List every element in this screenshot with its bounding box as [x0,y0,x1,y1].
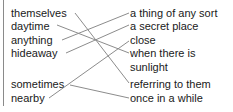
def-close[interactable]: close [130,34,156,46]
word-nearby[interactable]: nearby [11,92,45,104]
def-referring-to-them[interactable]: referring to them [130,78,211,90]
line-sometimes-once [70,85,129,98]
word-sometimes[interactable]: sometimes [11,78,64,90]
def-once-in-a-while[interactable]: once in a while [130,92,203,104]
line-anything-thing [62,13,129,40]
def-when-there-is[interactable]: when there is [130,47,195,59]
word-hideaway[interactable]: hideaway [11,47,57,59]
def-sunlight: sunlight [130,61,168,73]
word-themselves[interactable]: themselves [11,7,67,19]
def-secret-place[interactable]: a secret place [130,20,198,32]
word-anything[interactable]: anything [11,34,53,46]
word-daytime[interactable]: daytime [11,20,50,32]
def-thing-of-any-sort[interactable]: a thing of any sort [130,7,217,19]
